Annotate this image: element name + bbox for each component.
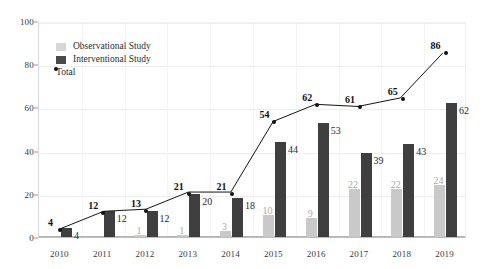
total-data-point[interactable] [358, 105, 362, 109]
legend-label-interventional: Interventional Study [73, 53, 151, 66]
total-data-point[interactable] [315, 103, 319, 107]
total-data-point[interactable] [444, 51, 448, 55]
legend-item-interventional[interactable]: Interventional Study [56, 53, 151, 66]
legend-item-total[interactable]: Total [56, 66, 151, 79]
x-axis-tick-label: 2013 [178, 249, 197, 259]
total-data-point[interactable] [101, 211, 105, 215]
total-data-label: 86 [431, 40, 441, 51]
x-axis-tick-label: 2016 [307, 249, 326, 259]
total-data-label: 65 [388, 86, 398, 97]
x-axis-tick-label: 2019 [435, 249, 454, 259]
total-line [61, 53, 443, 228]
y-axis-tick-mark [34, 238, 38, 239]
total-data-label: 21 [217, 181, 227, 192]
y-axis-tick-label: 0 [0, 233, 34, 243]
y-axis-tick-label: 40 [0, 147, 34, 157]
chart-container: 4121121203181044953223922432462 41213212… [0, 0, 489, 269]
total-data-label: 13 [131, 198, 141, 209]
legend-swatch-interventional [56, 56, 66, 64]
x-axis-tick-label: 2011 [93, 249, 111, 259]
x-axis-tick-label: 2012 [136, 249, 155, 259]
total-data-label: 21 [174, 181, 184, 192]
total-data-label: 54 [259, 109, 269, 120]
total-data-point[interactable] [230, 192, 234, 196]
y-axis-tick-mark [34, 194, 38, 195]
total-data-label: 4 [48, 217, 53, 228]
y-axis-tick-label: 80 [0, 60, 34, 70]
total-data-point[interactable] [272, 120, 276, 124]
legend: Observational Study Interventional Study… [56, 40, 151, 79]
y-axis-tick-mark [34, 108, 38, 109]
total-data-point[interactable] [144, 209, 148, 213]
total-data-label: 61 [345, 94, 355, 105]
y-axis-tick-mark [34, 151, 38, 152]
legend-label-observational: Observational Study [73, 40, 151, 53]
total-data-point[interactable] [401, 97, 405, 101]
total-data-label: 12 [88, 200, 98, 211]
y-axis-tick-label: 20 [0, 190, 34, 200]
x-axis-tick-label: 2014 [221, 249, 240, 259]
y-axis-tick-mark [34, 22, 38, 23]
legend-swatch-observational [56, 43, 66, 51]
total-data-point[interactable] [187, 192, 191, 196]
x-axis-tick-label: 2018 [392, 249, 411, 259]
legend-item-observational[interactable]: Observational Study [56, 40, 151, 53]
y-axis-tick-mark [34, 65, 38, 66]
total-data-point[interactable] [58, 228, 62, 232]
x-axis-tick-label: 2017 [350, 249, 369, 259]
x-axis-tick-label: 2015 [264, 249, 283, 259]
y-axis-tick-label: 100 [0, 17, 34, 27]
total-data-label: 62 [302, 92, 312, 103]
legend-marker-total [51, 65, 61, 73]
y-axis-tick-label: 60 [0, 103, 34, 113]
x-axis-tick-label: 2010 [50, 249, 69, 259]
